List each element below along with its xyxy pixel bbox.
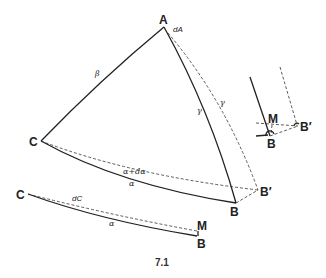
- inset-b-label: B: [267, 137, 276, 151]
- side-beta: [41, 27, 164, 141]
- inset-b-bprime: [270, 126, 298, 136]
- inset-solid-line: [250, 77, 270, 136]
- lower-c-label: C: [16, 188, 25, 202]
- side-alpha-plus: [41, 141, 258, 190]
- inset-m-b: [271, 125, 272, 135]
- figure-caption: 7.1: [155, 257, 169, 268]
- inset-bprime-label: B′: [300, 120, 312, 134]
- spherical-triangle-diagram: A C B B′ dA β γ γ α+dα α M B B′ C dC α M…: [0, 0, 326, 278]
- side-alpha-plus-label: α+dα: [123, 167, 146, 176]
- segment-b-bprime: [236, 190, 258, 203]
- angle-da-label: dA: [173, 25, 183, 34]
- vertex-a-label: A: [159, 13, 168, 27]
- side-gamma-label: γ: [197, 106, 202, 115]
- side-gamma: [164, 27, 236, 203]
- side-gamma-prime: [168, 33, 258, 190]
- vertex-c-label: C: [29, 135, 38, 149]
- vertex-b-label: B: [230, 205, 239, 219]
- inset-dashed-line: [280, 67, 297, 125]
- side-alpha-label: α: [129, 179, 135, 188]
- lower-b-label: B: [197, 237, 206, 251]
- lower-dc-label: dC: [72, 194, 82, 203]
- lower-m-label: M: [197, 219, 207, 233]
- lower-alpha-label: α: [109, 219, 115, 228]
- vertex-bprime-label: B′: [260, 185, 272, 199]
- side-beta-label: β: [94, 69, 100, 78]
- side-gamma-prime-label: γ: [220, 98, 225, 107]
- inset-m-label: M: [268, 112, 278, 126]
